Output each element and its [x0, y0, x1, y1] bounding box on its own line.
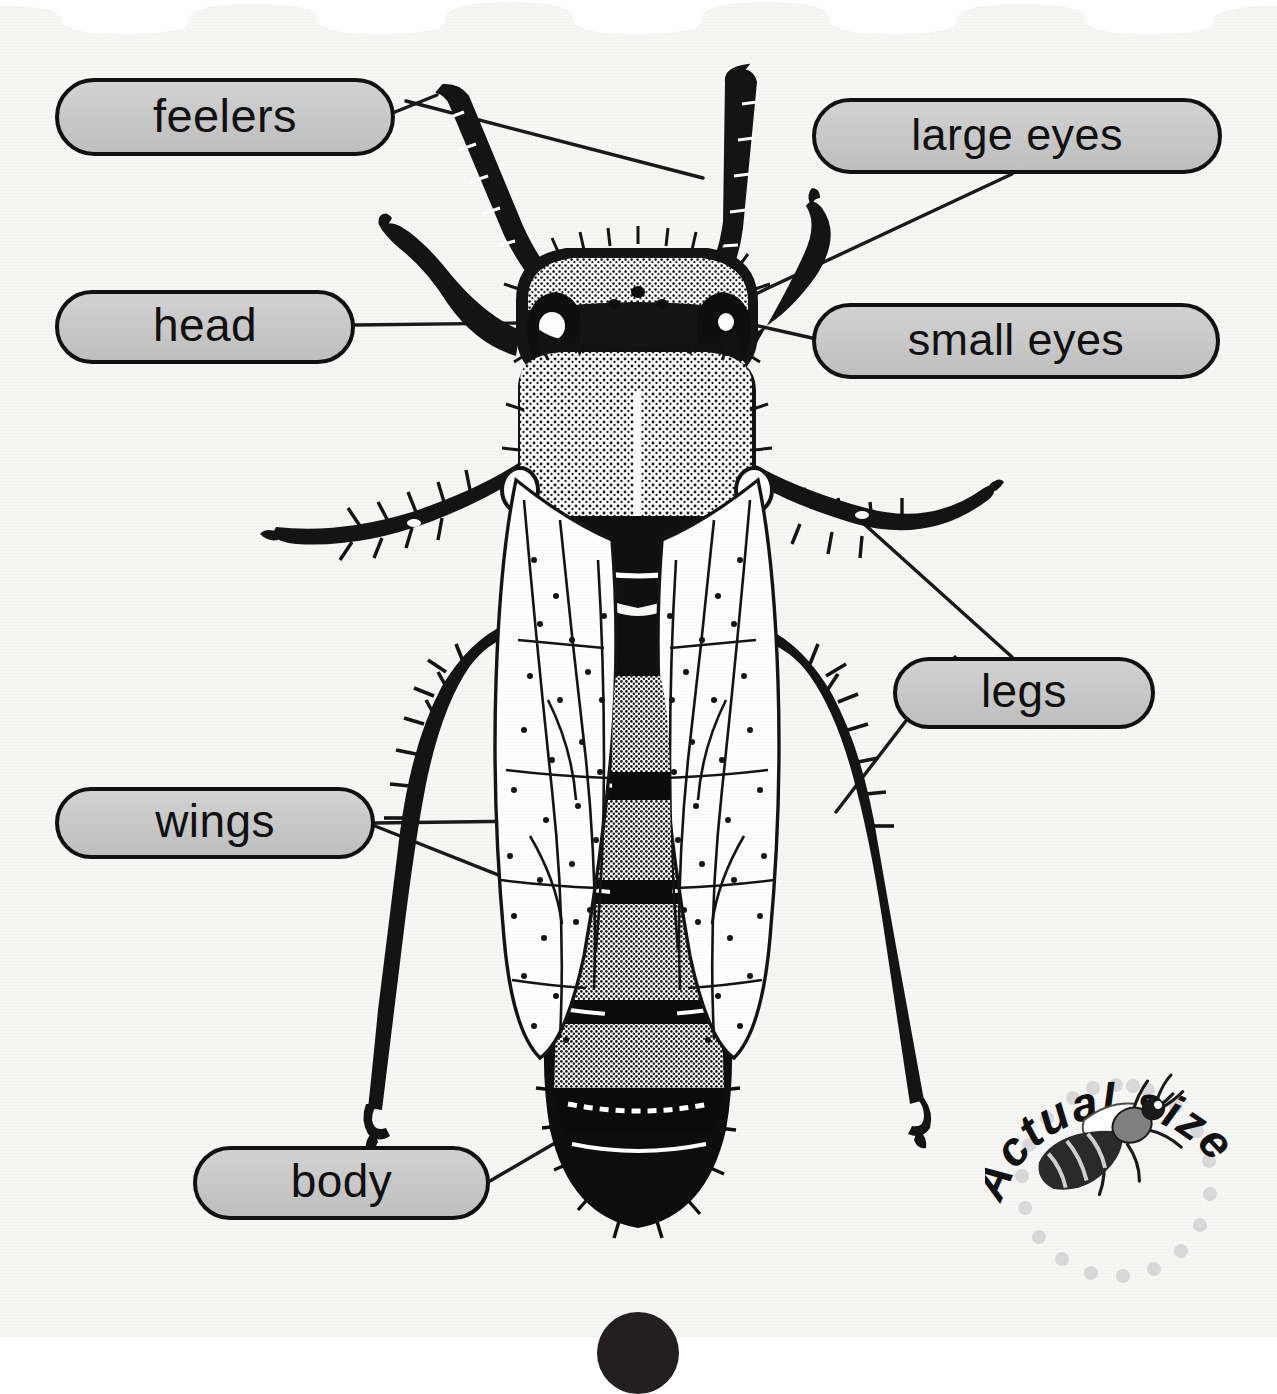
label-body-text: body [291, 1158, 392, 1204]
label-large-eyes[interactable]: large eyes [812, 98, 1222, 174]
label-wings[interactable]: wings [55, 787, 375, 859]
bee-body-group [260, 65, 1004, 1238]
page-number-badge [597, 1312, 679, 1394]
label-body[interactable]: body [193, 1146, 490, 1220]
label-legs[interactable]: legs [893, 657, 1155, 729]
scalloped-top-border [0, 0, 1277, 34]
actual-size-badge: Actual size [985, 1048, 1247, 1310]
label-feelers-text: feelers [153, 92, 297, 139]
label-small-eyes-text: small eyes [908, 317, 1125, 362]
abdomen-center-strip [604, 676, 678, 1024]
label-head-text: head [153, 302, 257, 348]
label-head[interactable]: head [55, 290, 355, 364]
label-legs-text: legs [981, 668, 1067, 714]
label-feelers[interactable]: feelers [55, 78, 395, 156]
label-large-eyes-text: large eyes [911, 112, 1123, 157]
label-small-eyes[interactable]: small eyes [812, 303, 1220, 379]
label-wings-text: wings [155, 798, 275, 844]
